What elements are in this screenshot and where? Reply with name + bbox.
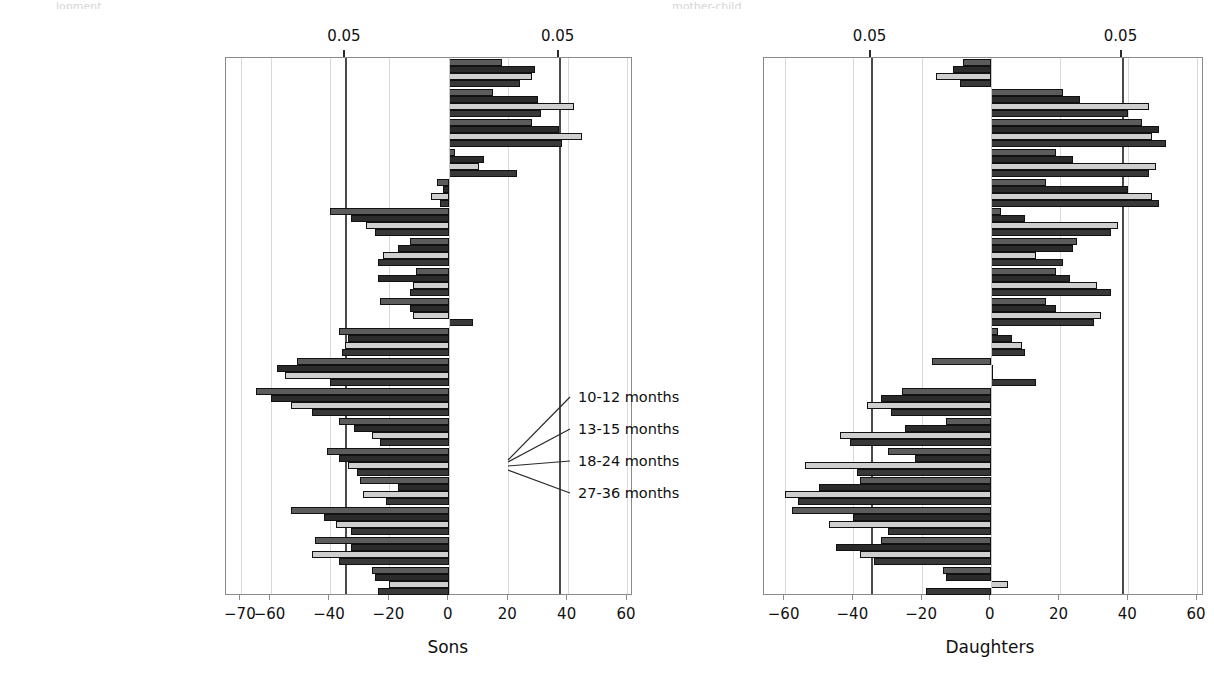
bar bbox=[991, 208, 1001, 215]
bar bbox=[416, 268, 449, 275]
bar bbox=[936, 73, 991, 80]
x-axis-tick-label: −60 bbox=[768, 605, 800, 623]
bar bbox=[297, 358, 449, 365]
bar bbox=[383, 252, 448, 259]
bar bbox=[291, 402, 448, 409]
bar bbox=[360, 477, 449, 484]
bar bbox=[413, 282, 449, 289]
significance-tick bbox=[1120, 50, 1122, 57]
bar bbox=[888, 448, 991, 455]
gridline bbox=[1197, 58, 1198, 594]
bar bbox=[867, 402, 991, 409]
significance-label: 0.05 bbox=[853, 27, 886, 45]
x-axis-title-daughters: Daughters bbox=[945, 637, 1034, 657]
bar bbox=[449, 66, 535, 73]
panel-daughters: 0.050.05−60−40−200204060Daughters bbox=[650, 0, 1214, 684]
bar bbox=[829, 521, 991, 528]
bar bbox=[805, 462, 991, 469]
significance-label: 0.05 bbox=[327, 27, 360, 45]
bar bbox=[449, 140, 562, 147]
bar bbox=[991, 222, 1118, 229]
x-axis-tick-mark bbox=[989, 595, 990, 600]
bar bbox=[449, 73, 532, 80]
x-axis-tick-label: 40 bbox=[557, 605, 576, 623]
bar bbox=[792, 507, 991, 514]
bar bbox=[389, 581, 448, 588]
bar bbox=[991, 103, 1149, 110]
bar bbox=[991, 275, 1070, 282]
bar bbox=[857, 469, 991, 476]
x-axis-tick-label: 20 bbox=[498, 605, 517, 623]
x-axis-tick-mark bbox=[626, 595, 627, 600]
bar bbox=[891, 409, 991, 416]
bar bbox=[991, 259, 1063, 266]
bar bbox=[991, 298, 1046, 305]
bar bbox=[345, 342, 449, 349]
x-axis-tick-mark bbox=[239, 595, 240, 600]
bar bbox=[312, 409, 449, 416]
bar bbox=[932, 358, 990, 365]
bar bbox=[991, 110, 1129, 117]
bar bbox=[991, 215, 1025, 222]
bar bbox=[991, 179, 1046, 186]
bar bbox=[449, 80, 520, 87]
plot-area-daughters bbox=[763, 57, 1203, 595]
bar bbox=[336, 521, 449, 528]
bar bbox=[991, 305, 1056, 312]
x-axis-tick-mark bbox=[921, 595, 922, 600]
gridline bbox=[241, 58, 242, 594]
bar bbox=[354, 425, 449, 432]
significance-tick bbox=[557, 50, 559, 57]
bar bbox=[291, 507, 448, 514]
bar bbox=[902, 388, 991, 395]
bar bbox=[991, 342, 1022, 349]
bar bbox=[991, 289, 1111, 296]
bar bbox=[785, 491, 991, 498]
bar bbox=[819, 484, 991, 491]
zero-line bbox=[991, 58, 992, 594]
bar bbox=[375, 229, 449, 236]
bar bbox=[449, 126, 559, 133]
bar bbox=[366, 222, 449, 229]
bar bbox=[330, 208, 449, 215]
bar bbox=[991, 252, 1036, 259]
bar bbox=[342, 349, 449, 356]
x-axis-tick-label: −20 bbox=[373, 605, 405, 623]
bar bbox=[991, 238, 1077, 245]
bar bbox=[860, 551, 991, 558]
bar bbox=[991, 379, 1036, 386]
bar bbox=[991, 133, 1153, 140]
x-axis-tick-label: −40 bbox=[313, 605, 345, 623]
x-axis-tick-mark bbox=[507, 595, 508, 600]
bar bbox=[991, 140, 1166, 147]
bar bbox=[339, 455, 449, 462]
bar bbox=[991, 193, 1153, 200]
bar bbox=[991, 156, 1074, 163]
bar bbox=[991, 245, 1074, 252]
bar bbox=[327, 448, 449, 455]
bar bbox=[449, 170, 517, 177]
bar bbox=[840, 432, 991, 439]
bar bbox=[991, 312, 1101, 319]
bar bbox=[888, 528, 991, 535]
plot-area-sons bbox=[225, 57, 632, 595]
bar bbox=[330, 379, 449, 386]
bar bbox=[351, 215, 449, 222]
bar bbox=[339, 328, 449, 335]
x-axis-tick-label: 60 bbox=[1187, 605, 1206, 623]
x-axis-tick-mark bbox=[566, 595, 567, 600]
bar bbox=[449, 89, 494, 96]
significance-tick bbox=[343, 50, 345, 57]
bar bbox=[991, 229, 1111, 236]
bar bbox=[991, 581, 1008, 588]
bar bbox=[351, 528, 449, 535]
bar bbox=[440, 200, 449, 207]
bar bbox=[378, 588, 449, 595]
bar bbox=[449, 59, 502, 66]
bar bbox=[905, 425, 991, 432]
bar bbox=[449, 96, 538, 103]
bar bbox=[449, 163, 479, 170]
bar bbox=[991, 335, 1012, 342]
bar bbox=[991, 119, 1142, 126]
bar bbox=[953, 66, 991, 73]
